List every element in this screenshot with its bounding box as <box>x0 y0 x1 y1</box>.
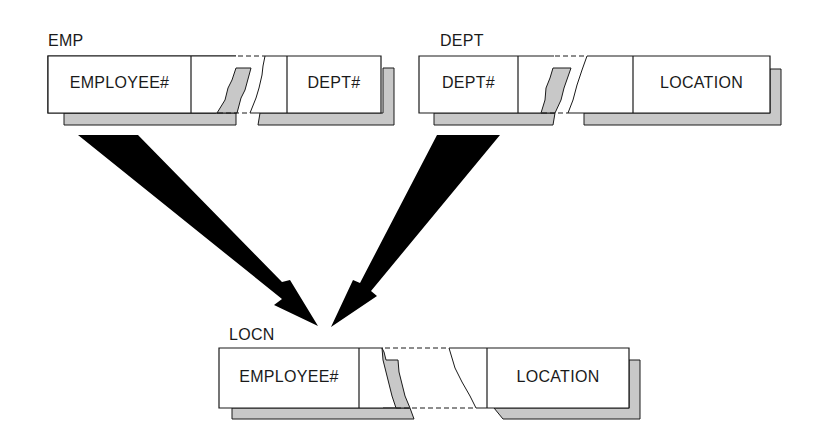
emp-shadow-left <box>64 113 236 125</box>
table-name-locn: LOCN <box>229 326 275 344</box>
arrow-dept-to-locn <box>331 135 500 327</box>
table-name-emp: EMP <box>48 32 84 50</box>
emp-col-dept: DEPT# <box>287 74 381 92</box>
emp-col-employee: EMPLOYEE# <box>48 74 191 92</box>
locn-shadow-left <box>232 408 414 419</box>
dept-col-dept: DEPT# <box>419 74 518 92</box>
diagram-canvas <box>0 0 819 442</box>
dept-col-location: LOCATION <box>633 74 770 92</box>
locn-col-location: LOCATION <box>487 368 629 386</box>
locn-col-employee: EMPLOYEE# <box>219 368 359 386</box>
table-name-dept: DEPT <box>440 32 484 50</box>
arrow-emp-to-locn <box>78 135 318 326</box>
locn-tear-grey <box>382 348 410 408</box>
dept-shadow-left <box>434 113 555 125</box>
